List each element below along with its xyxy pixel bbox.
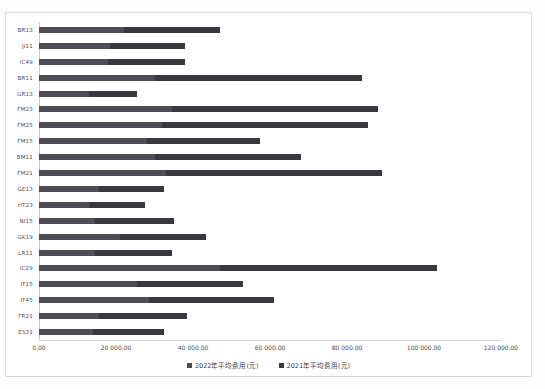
bar-segment-2022: [39, 218, 95, 224]
legend-label: 2021年平均费用(元): [287, 360, 351, 370]
category-label: HT23: [6, 202, 33, 208]
bar-segment-2022: [39, 281, 137, 287]
bar-row: [39, 106, 378, 112]
bar-segment-2022: [39, 75, 155, 81]
bar-segment-2022: [39, 265, 220, 271]
bar-segment-2021: [220, 265, 438, 271]
bar-segment-2021: [110, 43, 185, 49]
legend-label: 2022年平均费用(元): [195, 360, 259, 370]
bar-row: [39, 91, 137, 97]
legend-swatch-icon: [279, 363, 284, 368]
bar-row: [39, 281, 243, 287]
bar-row: [39, 250, 172, 256]
bar-segment-2021: [99, 186, 164, 192]
bar-segment-2021: [162, 122, 368, 128]
chart: BR13JI11IC49BR11GR13FM23FM25FM15BM11FM21…: [5, 12, 532, 377]
x-tick-label: 100 000.00: [407, 344, 441, 351]
bar-segment-2022: [39, 59, 108, 65]
legend-item: 2022年平均费用(元): [187, 360, 259, 370]
bar-segment-2022: [39, 329, 93, 335]
x-tick-label: 40 000.00: [178, 344, 209, 351]
bar-row: [39, 297, 274, 303]
category-label: IC29: [6, 265, 33, 271]
bar-segment-2021: [93, 329, 164, 335]
bar-segment-2021: [99, 313, 188, 319]
category-label: FM15: [6, 138, 33, 144]
bar-segment-2021: [124, 27, 220, 33]
bar-row: [39, 75, 362, 81]
bar-row: [39, 27, 220, 33]
bar-segment-2022: [39, 202, 89, 208]
bar-row: [39, 265, 437, 271]
category-label: JI11: [6, 43, 33, 49]
bar-segment-2021: [147, 138, 261, 144]
bar-segment-2022: [39, 154, 155, 160]
category-label: FM25: [6, 122, 33, 128]
x-tick-label: 120 000.00: [484, 344, 518, 351]
bar-segment-2021: [155, 154, 301, 160]
bar-segment-2021: [95, 218, 174, 224]
bar-row: [39, 138, 260, 144]
bar-segment-2022: [39, 43, 110, 49]
category-label: IF45: [6, 297, 33, 303]
bar-segment-2021: [89, 202, 145, 208]
bar-segment-2021: [137, 281, 243, 287]
bar-segment-2022: [39, 250, 95, 256]
x-axis-line: [39, 340, 502, 341]
bar-row: [39, 122, 368, 128]
x-tick-label: 0.00: [32, 344, 45, 351]
bar-row: [39, 154, 301, 160]
category-label: ES31: [6, 329, 33, 335]
category-label: FM21: [6, 170, 33, 176]
category-label: IF15: [6, 281, 33, 287]
bar-segment-2021: [108, 59, 185, 65]
bar-segment-2022: [39, 138, 147, 144]
category-label: GE13: [6, 186, 33, 192]
bar-segment-2022: [39, 297, 149, 303]
legend-swatch-icon: [187, 363, 192, 368]
bar-segment-2021: [155, 75, 363, 81]
bar-segment-2021: [120, 234, 207, 240]
bar-segment-2021: [89, 91, 137, 97]
bar-row: [39, 202, 145, 208]
bar-row: [39, 186, 164, 192]
category-label: FR21: [6, 313, 33, 319]
category-label: LR11: [6, 250, 33, 256]
x-tick-label: 60 000.00: [255, 344, 286, 351]
category-label: BM11: [6, 154, 33, 160]
bar-segment-2022: [39, 313, 99, 319]
bar-row: [39, 59, 185, 65]
bar-segment-2021: [149, 297, 274, 303]
bar-segment-2022: [39, 122, 162, 128]
bar-row: [39, 218, 174, 224]
category-label: NI15: [6, 218, 33, 224]
bar-segment-2022: [39, 170, 166, 176]
category-label: IC49: [6, 59, 33, 65]
bar-row: [39, 43, 185, 49]
bar-row: [39, 329, 164, 335]
plot-area: [39, 22, 501, 340]
bar-segment-2021: [95, 250, 172, 256]
category-label: GK19: [6, 234, 33, 240]
bar-segment-2022: [39, 186, 99, 192]
bar-segment-2022: [39, 106, 172, 112]
category-label: FM23: [6, 106, 33, 112]
legend-item: 2021年平均费用(元): [279, 360, 351, 370]
x-tick-label: 20 000.00: [101, 344, 132, 351]
bar-row: [39, 313, 187, 319]
x-tick-label: 80 000.00: [332, 344, 363, 351]
bar-segment-2022: [39, 27, 124, 33]
bar-row: [39, 234, 206, 240]
category-label: BR11: [6, 75, 33, 81]
bar-segment-2021: [172, 106, 378, 112]
legend: 2022年平均费用(元)2021年平均费用(元): [6, 360, 531, 370]
category-label: BR13: [6, 27, 33, 33]
category-label: GR13: [6, 91, 33, 97]
bar-segment-2022: [39, 91, 89, 97]
bar-segment-2021: [166, 170, 382, 176]
bar-segment-2022: [39, 234, 120, 240]
bar-row: [39, 170, 382, 176]
